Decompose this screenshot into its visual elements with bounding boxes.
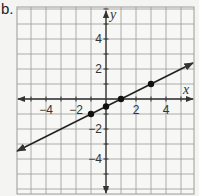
y-axis-label: y (108, 7, 117, 22)
data-point (88, 111, 94, 117)
data-point (103, 103, 109, 109)
x-tick-label: −2 (69, 103, 83, 117)
x-tick-label: 4 (163, 103, 170, 117)
x-tick-label: 2 (133, 103, 140, 117)
y-tick-label: −4 (88, 152, 102, 166)
y-tick-label: 4 (95, 32, 102, 46)
coordinate-plane: xy −4−22442−2−4 (0, 0, 199, 196)
y-tick-label: −2 (88, 122, 102, 136)
data-point (118, 96, 124, 102)
x-axis-label: x (182, 82, 190, 97)
x-tick-label: −4 (39, 103, 53, 117)
y-tick-label: 2 (95, 62, 102, 76)
data-point (148, 81, 154, 87)
